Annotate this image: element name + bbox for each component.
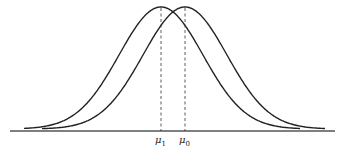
curve-mu0 xyxy=(42,7,325,129)
label-mu0: μ0 xyxy=(179,134,190,148)
label-mu1: μ1 xyxy=(155,134,166,148)
curve-mu1 xyxy=(24,7,300,128)
diagram-canvas: μ1 μ0 xyxy=(0,0,342,155)
normal-curves-svg xyxy=(0,0,342,155)
